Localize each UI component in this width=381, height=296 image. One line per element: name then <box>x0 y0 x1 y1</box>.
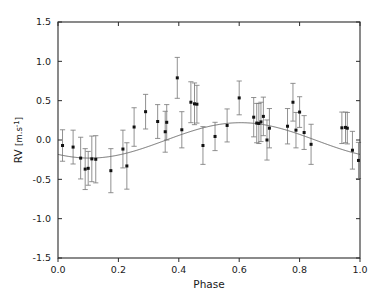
data-point-marker <box>180 128 183 131</box>
data-point-marker <box>61 144 64 147</box>
data-point-marker <box>164 130 167 133</box>
data-point-marker <box>303 131 306 134</box>
data-point-marker <box>351 149 354 152</box>
data-point-marker <box>238 96 241 99</box>
svg-text:Phase: Phase <box>193 278 224 290</box>
data-point-marker <box>125 164 128 167</box>
x-tick-label: 0.8 <box>292 264 307 275</box>
data-point-marker <box>156 120 159 123</box>
data-point-marker <box>346 127 349 130</box>
svg-text:RV [m.s-1]: RV [m.s-1] <box>12 117 24 163</box>
data-point-marker <box>133 126 136 129</box>
y-tick-label: -1.5 <box>32 252 51 263</box>
data-point-marker <box>262 115 265 118</box>
y-tick-label: -1.0 <box>32 213 51 224</box>
data-point-marker <box>310 143 313 146</box>
data-point-marker <box>298 111 301 114</box>
data-point-marker <box>226 124 229 127</box>
data-point-marker <box>286 125 289 128</box>
data-point-marker <box>201 144 204 147</box>
data-point-marker <box>87 167 90 170</box>
y-tick-label: -0.5 <box>32 174 51 185</box>
data-point-marker <box>265 139 268 142</box>
x-tick-label: 0.0 <box>50 264 65 275</box>
x-tick-label: 0.2 <box>111 264 126 275</box>
data-point-marker <box>291 101 294 104</box>
data-point-marker <box>214 135 217 138</box>
data-point-marker <box>94 158 97 161</box>
data-point-marker <box>109 169 112 172</box>
data-point-marker <box>340 126 343 129</box>
data-point-marker <box>90 157 93 160</box>
y-tick-label: 0.0 <box>36 134 51 145</box>
data-point-marker <box>79 157 82 160</box>
data-point-marker <box>176 76 179 79</box>
x-tick-label: 0.6 <box>232 264 247 275</box>
data-point-marker <box>165 121 168 124</box>
data-point-marker <box>294 129 297 132</box>
data-point-marker <box>84 168 87 171</box>
data-point-marker <box>252 116 255 119</box>
y-tick-label: 1.5 <box>36 16 51 27</box>
x-tick-label: 0.4 <box>171 264 186 275</box>
radial-velocity-phase-plot: 0.00.20.40.60.81.0 -1.5-1.0-0.50.00.51.0… <box>0 0 381 296</box>
data-point-marker <box>72 146 75 149</box>
data-point-marker <box>121 148 124 151</box>
y-axis-title: RV [m.s-1] <box>12 117 24 163</box>
x-axis-title: Phase <box>193 278 224 290</box>
data-point-marker <box>195 103 198 106</box>
data-point-marker <box>189 101 192 104</box>
data-point-marker <box>259 120 262 123</box>
y-tick-label: 0.5 <box>36 95 51 106</box>
data-point-marker <box>268 127 271 130</box>
x-tick-label: 1.0 <box>352 264 367 275</box>
figure-canvas: 0.00.20.40.60.81.0 -1.5-1.0-0.50.00.51.0… <box>0 0 381 296</box>
data-point-marker <box>144 110 147 113</box>
y-tick-label: 1.0 <box>36 56 51 67</box>
